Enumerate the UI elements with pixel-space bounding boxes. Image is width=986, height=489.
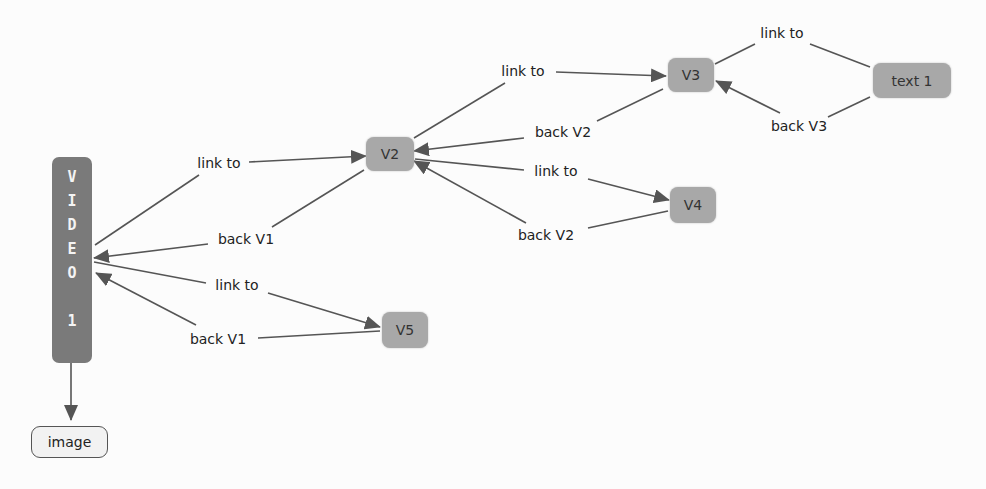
node-v2-label: V2 [381, 146, 399, 162]
node-v4[interactable]: V4 [670, 187, 716, 223]
video1-letter-v: V [67, 165, 76, 189]
edge-v5-video1-back-a [258, 331, 380, 338]
video1-letter-o: O [67, 261, 76, 285]
video1-letter-i: I [67, 189, 76, 213]
edge-v3-v2-back-a [597, 89, 663, 121]
edge-label-v3-text1: link to [757, 25, 806, 41]
edge-label-v2-video1: back V1 [215, 231, 277, 247]
node-v2[interactable]: V2 [366, 137, 414, 171]
edge-v4-v2-back-a [588, 211, 668, 228]
edge-v3-v2-back-b [414, 138, 524, 151]
edge-label-v3-v2: back V2 [532, 124, 594, 140]
edge-label-text1-v3: back V3 [768, 118, 830, 134]
node-image-label: image [48, 434, 92, 450]
edge-label-video1-v5: link to [212, 277, 261, 293]
edge-text1-v3-back-b [716, 81, 780, 113]
node-v4-label: V4 [684, 197, 702, 213]
edge-v4-v2-back-b [414, 161, 526, 223]
edge-v3-text1-link-b [810, 44, 870, 67]
node-v3-label: V3 [682, 67, 700, 83]
edge-v2-video1-back-a [272, 170, 364, 227]
video1-letter-1: 1 [67, 309, 76, 333]
video1-letter-d: D [67, 213, 76, 237]
node-text-1[interactable]: text 1 [873, 63, 951, 98]
node-image[interactable]: image [31, 426, 108, 458]
edge-label-v2-v4: link to [531, 163, 580, 179]
edge-canvas [0, 0, 986, 489]
edge-label-v4-v2: back V2 [515, 227, 577, 243]
node-v5-label: V5 [396, 322, 414, 338]
edge-video1-v2-link-b [249, 156, 366, 162]
edge-video1-v5-link-b [268, 293, 380, 327]
edge-v2-v3-link-b [556, 72, 666, 76]
edge-label-v2-v3: link to [498, 63, 547, 79]
edge-v2-video1-back-b [94, 244, 208, 258]
node-v3[interactable]: V3 [668, 58, 714, 92]
node-v5[interactable]: V5 [382, 312, 428, 348]
video1-letter-e: E [67, 237, 76, 261]
edge-label-v5-video1: back V1 [187, 331, 249, 347]
edge-v2-v4-link-b [588, 179, 669, 200]
edge-text1-v3-back-a [828, 97, 870, 117]
edge-video1-v2-link-a [95, 175, 199, 245]
edge-v5-video1-back-b [96, 273, 196, 325]
edge-label-video1-v2: link to [194, 155, 243, 171]
edge-v3-text1-link-a [715, 44, 755, 64]
node-text1-label: text 1 [892, 73, 933, 89]
node-video-1[interactable]: V I D E O 1 [52, 157, 92, 363]
edge-v2-v4-link-a [415, 159, 524, 170]
edge-v2-v3-link-a [414, 83, 505, 138]
